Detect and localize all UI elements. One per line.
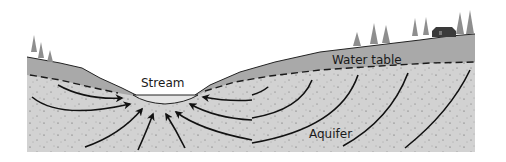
aquifer-label: Aquifer — [309, 127, 352, 141]
house-icon — [432, 27, 456, 37]
tree-icon — [38, 42, 44, 58]
stream-label: Stream — [141, 76, 184, 90]
tree-icon — [466, 10, 474, 34]
tree-icon — [412, 18, 418, 36]
tree-icon — [456, 12, 464, 34]
tree-icon — [370, 23, 378, 44]
tree-icon — [423, 17, 429, 35]
tree-icon — [382, 25, 390, 43]
groundwater-diagram: Stream Water table Aquifer — [0, 0, 506, 162]
tree-icon — [47, 50, 53, 62]
tree-icon — [353, 32, 361, 46]
water-table-label: Water table — [332, 53, 402, 67]
tree-icon — [31, 35, 37, 52]
